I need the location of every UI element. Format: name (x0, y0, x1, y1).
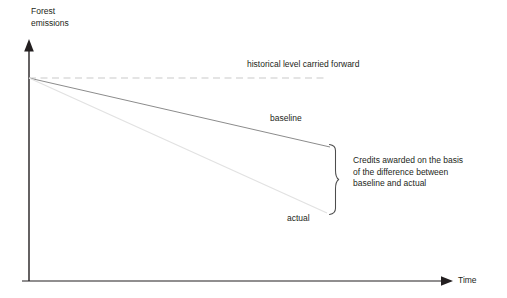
x-axis-arrowhead-icon (441, 276, 453, 286)
y-axis (24, 39, 34, 281)
y-axis-title: Forest emissions (31, 6, 69, 29)
actual-line (29, 78, 327, 213)
actual-label: actual (287, 213, 310, 225)
y-axis-arrowhead-icon (24, 39, 34, 52)
x-axis (22, 276, 453, 286)
credits-annotation-label: Credits awarded on the basis of the diff… (353, 155, 463, 190)
credits-brace-icon (330, 145, 339, 215)
baseline-label: baseline (270, 113, 302, 125)
x-axis-title: Time (458, 275, 477, 287)
diagram-canvas (0, 0, 507, 298)
forest-emissions-diagram: Forest emissions Time historical level c… (0, 0, 507, 298)
historical-level-label: historical level carried forward (247, 59, 359, 71)
